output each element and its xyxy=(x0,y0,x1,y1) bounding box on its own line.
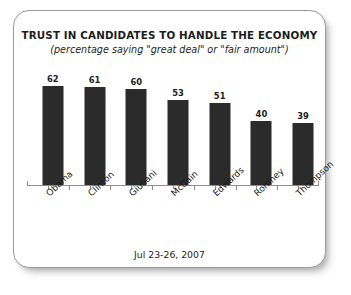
bar-value-label: 39 xyxy=(297,111,309,121)
chart-card: TRUST IN CANDIDATES TO HANDLE THE ECONOM… xyxy=(13,10,326,268)
axis-tick xyxy=(110,186,111,190)
bar xyxy=(209,103,230,185)
bar xyxy=(42,86,63,185)
bar-group: 61 xyxy=(74,73,116,185)
axis-tick xyxy=(277,186,278,190)
bar xyxy=(167,100,188,185)
bar-value-label: 60 xyxy=(130,77,142,87)
chart-subtitle: (percentage saying "great deal" or "fair… xyxy=(14,44,325,55)
axis-tick xyxy=(194,186,195,190)
bar xyxy=(84,87,105,185)
axis-tick xyxy=(152,186,153,190)
axis-tick xyxy=(69,186,70,190)
bar-value-label: 62 xyxy=(47,74,59,84)
chart-screenshot: TRUST IN CANDIDATES TO HANDLE THE ECONOM… xyxy=(0,0,351,295)
bar xyxy=(126,89,147,185)
axis-tick xyxy=(236,186,237,190)
category-labels: ObamaClintonGiulianiMcCainEdwardsRomneyT… xyxy=(32,191,324,251)
axis-end-cap xyxy=(27,181,28,185)
bar-value-label: 51 xyxy=(214,91,226,101)
chart-footnote: Jul 23-26, 2007 xyxy=(14,249,325,260)
chart-title: TRUST IN CANDIDATES TO HANDLE THE ECONOM… xyxy=(14,29,325,41)
bar-value-label: 40 xyxy=(256,109,268,119)
bar-value-label: 61 xyxy=(89,75,101,85)
bar-value-label: 53 xyxy=(172,88,184,98)
